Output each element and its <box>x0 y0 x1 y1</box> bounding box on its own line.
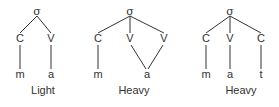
vowel-slot-node: V <box>226 32 234 44</box>
segment-node: t <box>259 68 262 80</box>
vowel-slot-node: V <box>47 32 55 44</box>
segment-node: m <box>201 68 210 80</box>
segment-node: a <box>144 68 151 80</box>
segment-node: a <box>48 68 55 80</box>
tree-branch-line <box>130 16 164 33</box>
tree-branch-line <box>206 16 230 33</box>
syllable-tree-heavy: σCVCmatHeavy <box>201 5 265 96</box>
tree-branch-line <box>20 16 37 33</box>
tree-branch-line <box>131 45 146 69</box>
tree-branch-line <box>148 45 163 69</box>
consonant-slot-node: C <box>16 32 24 44</box>
vowel-slot-node: V <box>160 32 168 44</box>
tree-branch-line <box>98 16 130 33</box>
consonant-slot-node: C <box>202 32 210 44</box>
segment-node: a <box>227 68 234 80</box>
syllable-node-sigma: σ <box>126 5 134 18</box>
syllable-node-sigma: σ <box>33 5 41 18</box>
tree-branch-line <box>37 16 51 33</box>
trees-layer: σCVmaLightσCVVmaHeavyσCVCmatHeavy <box>15 5 265 96</box>
tree-caption: Heavy <box>225 84 257 96</box>
tree-caption: Light <box>31 84 55 96</box>
vowel-slot-node: V <box>126 32 134 44</box>
syllable-node-sigma: σ <box>226 5 234 18</box>
syllable-weight-diagram: σCVmaLightσCVVmaHeavyσCVCmatHeavy <box>0 0 279 107</box>
tree-branch-line <box>230 16 261 33</box>
syllable-tree-light: σCVmaLight <box>15 5 55 96</box>
tree-caption: Heavy <box>118 84 150 96</box>
consonant-slot-node: C <box>257 32 265 44</box>
segment-node: m <box>93 68 102 80</box>
consonant-slot-node: C <box>94 32 102 44</box>
segment-node: m <box>15 68 24 80</box>
syllable-tree-heavy: σCVVmaHeavy <box>93 5 168 96</box>
